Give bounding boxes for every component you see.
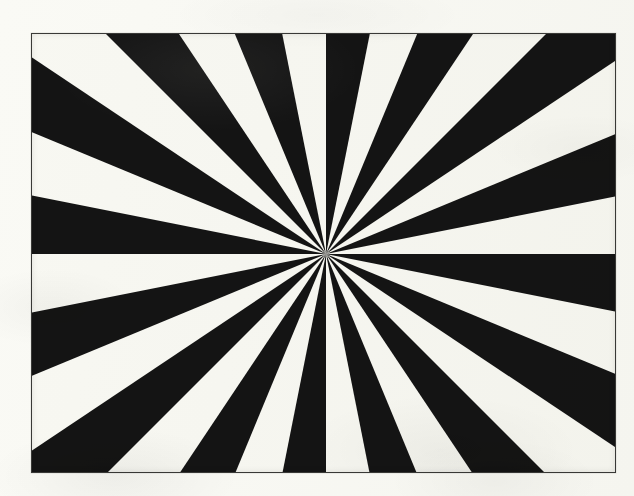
sunburst-pattern — [32, 34, 615, 472]
figure-frame — [31, 33, 616, 473]
page-canvas: Scanned black-and-white radial sunburst … — [0, 0, 634, 496]
